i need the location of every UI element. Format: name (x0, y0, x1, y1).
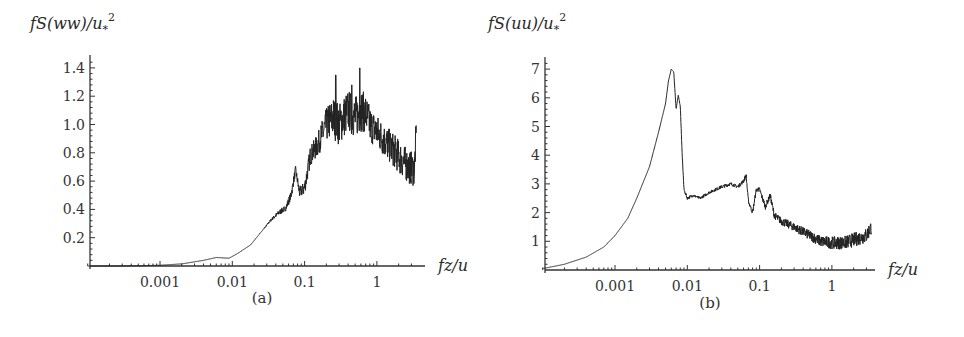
x-tick-label: 1 (372, 274, 381, 290)
x-tick-label: 0.1 (293, 274, 315, 290)
y-tick-label: 3 (531, 176, 540, 192)
y-axis-title-a: fS(ww)/u*2 (29, 11, 115, 36)
y-tick-label: 1.0 (63, 117, 85, 133)
y-tick-label: 4 (531, 147, 540, 163)
y-tick-label: 1.2 (63, 88, 85, 104)
figure: fS(ww)/u*2 0.20.40.60.81.01.21.4 0.0010.… (0, 0, 964, 337)
panel-caption-a: (a) (252, 289, 273, 307)
x-tick-label: 1 (827, 278, 836, 294)
y-tick-label: 0.2 (63, 230, 85, 246)
series-line-b (543, 69, 872, 269)
chart-panel-a: fS(ww)/u*2 0.20.40.60.81.01.21.4 0.0010.… (29, 11, 468, 307)
series-line-a (88, 68, 417, 266)
y-tick-label: 1 (531, 233, 540, 249)
x-tick-label: 0.001 (595, 278, 635, 294)
x-tick-label: 0.001 (140, 274, 180, 290)
x-tick-label: 0.01 (672, 278, 703, 294)
y-tick-label: 7 (531, 61, 540, 77)
y-tick-label: 0.4 (63, 201, 85, 217)
y-tick-label: 2 (531, 205, 540, 221)
x-tick-label: 0.1 (748, 278, 770, 294)
y-tick-label: 1.4 (63, 60, 85, 76)
y-tick-label: 0.6 (63, 173, 85, 189)
y-tick-label: 6 (531, 90, 540, 106)
x-axis-title-a: fz/u (437, 256, 468, 275)
panel-caption-b: (b) (699, 294, 720, 312)
x-tick-label: 0.01 (217, 274, 248, 290)
chart-panel-b: fS(uu)/u*2 1234567 0.0010.010.11 fz/u (b… (487, 11, 918, 312)
y-ticks-b: 1234567 (531, 61, 550, 264)
x-axis-title-b: fz/u (887, 260, 918, 279)
y-tick-label: 0.8 (63, 145, 85, 161)
y-tick-label: 5 (531, 119, 540, 135)
y-axis-title-b: fS(uu)/u*2 (487, 11, 566, 36)
